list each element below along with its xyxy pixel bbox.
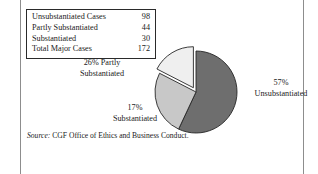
table-cell-label: Substantiated <box>32 34 133 45</box>
case-counts-table: Unsubstantiated Cases 98 Partly Substant… <box>26 9 156 59</box>
table-row: Partly Substantiated 44 <box>32 23 150 34</box>
pie-label-partly-line1: 26% Partly <box>62 58 142 69</box>
pie-label-unsubstantiated-line2: Unsubstantiated <box>248 89 314 100</box>
table-row: Substantiated 30 <box>32 34 150 45</box>
figure-container: Unsubstantiated Cases 98 Partly Substant… <box>0 0 318 174</box>
pie-chart-svg <box>146 44 250 142</box>
table-cell-label: Unsubstantiated Cases <box>32 12 133 23</box>
table-cell-value: 44 <box>133 23 150 34</box>
table-row: Total Major Cases 172 <box>32 44 150 55</box>
page-gutter-rule-left <box>20 0 21 174</box>
case-counts-table-body: Unsubstantiated Cases 98 Partly Substant… <box>32 12 150 55</box>
pie-label-partly-substantiated: 26% Partly Substantiated <box>62 58 142 79</box>
pie-chart <box>146 44 250 142</box>
source-note: Source: CGF Office of Ethics and Busines… <box>27 131 189 140</box>
table-cell-label: Total Major Cases <box>32 44 133 55</box>
table-cell-value: 98 <box>133 12 150 23</box>
table-row: Unsubstantiated Cases 98 <box>32 12 150 23</box>
source-note-text: CGF Office of Ethics and Business Conduc… <box>52 131 188 140</box>
pie-label-substantiated: 17% Substantiated <box>95 103 175 124</box>
source-note-prefix: Source: <box>27 131 50 140</box>
pie-label-unsubstantiated: 57% Unsubstantiated <box>248 78 314 99</box>
pie-label-substantiated-line2: Substantiated <box>95 114 175 125</box>
table-cell-label: Partly Substantiated <box>32 23 133 34</box>
pie-label-substantiated-line1: 17% <box>95 103 175 114</box>
table-cell-value: 30 <box>133 34 150 45</box>
pie-label-partly-line2: Substantiated <box>62 69 142 80</box>
pie-label-unsubstantiated-line1: 57% <box>248 78 314 89</box>
